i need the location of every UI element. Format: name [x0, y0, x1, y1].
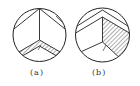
panel-b-tick-mark	[103, 45, 106, 51]
panel-a-caption: (a)	[30, 68, 44, 77]
panel-b-lower-left-line	[76, 42, 103, 54]
panel-b-figure	[74, 8, 131, 62]
panel-b-caption: (b)	[92, 68, 106, 77]
panel-a-lower-chevron	[12, 46, 67, 62]
diagram-canvas	[0, 0, 140, 86]
panel-a-figure	[12, 9, 67, 63]
